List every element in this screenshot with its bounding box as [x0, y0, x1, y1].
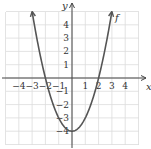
y-tick-label: 4 [63, 20, 69, 30]
y-tick-label: −1 [56, 86, 69, 96]
x-tick-label: 1 [82, 81, 88, 91]
x-tick-label: 4 [122, 81, 128, 91]
y-tick-label: 1 [63, 60, 69, 70]
y-tick-label: 3 [63, 33, 69, 43]
x-axis-label: x [146, 81, 151, 92]
y-tick-label: −2 [56, 100, 69, 110]
x-tick-label: −4 [12, 81, 26, 91]
y-axis-label: y [61, 0, 68, 11]
x-tick-label: −3 [25, 81, 39, 91]
x-tick-label: −2 [39, 81, 52, 91]
curve-label: f [114, 12, 121, 23]
y-tick-label: 2 [63, 46, 69, 56]
x-tick-label: 3 [109, 81, 115, 91]
graph: xy−4−3−2−112344321−1−2−3−4f [0, 0, 151, 149]
y-tick-label: −4 [56, 126, 70, 136]
